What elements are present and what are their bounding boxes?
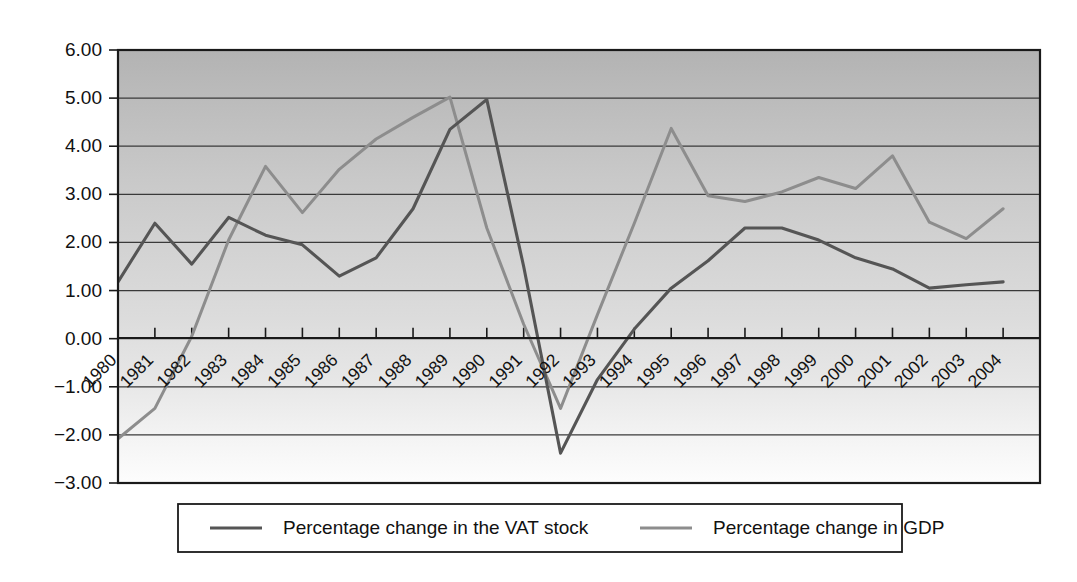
legend-label-vat: Percentage change in the VAT stock bbox=[283, 517, 589, 538]
line-chart: 6.005.004.003.002.001.000.00−1.00−2.00−3… bbox=[0, 0, 1077, 582]
chart-legend: Percentage change in the VAT stock Perce… bbox=[178, 504, 944, 552]
y-tick-label: −2.00 bbox=[54, 424, 102, 445]
y-tick-label: 6.00 bbox=[65, 39, 102, 60]
y-tick-label: 0.00 bbox=[65, 328, 102, 349]
y-tick-label: 4.00 bbox=[65, 135, 102, 156]
y-tick-label: 3.00 bbox=[65, 183, 102, 204]
y-tick-label: −3.00 bbox=[54, 472, 102, 493]
y-tick-label: 1.00 bbox=[65, 280, 102, 301]
y-tick-label: 5.00 bbox=[65, 87, 102, 108]
y-tick-label: 2.00 bbox=[65, 231, 102, 252]
chart-figure: 6.005.004.003.002.001.000.00−1.00−2.00−3… bbox=[0, 0, 1077, 582]
legend-label-gdp: Percentage change in GDP bbox=[713, 517, 944, 538]
